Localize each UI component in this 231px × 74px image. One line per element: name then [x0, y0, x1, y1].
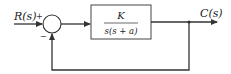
- input-label: R(s): [13, 10, 37, 23]
- block-diagram: R(s) + − K s(s + a) C(s): [0, 0, 231, 74]
- output-signal: C(s): [151, 7, 223, 24]
- block-numerator: K: [116, 10, 125, 21]
- plus-sign: +: [36, 12, 43, 21]
- summing-junction-icon: [43, 15, 61, 33]
- transfer-function-block: K s(s + a): [91, 5, 151, 39]
- block-denominator: s(s + a): [105, 26, 138, 36]
- output-label: C(s): [200, 7, 223, 20]
- summing-junction: + −: [36, 12, 61, 41]
- minus-sign: −: [40, 32, 47, 41]
